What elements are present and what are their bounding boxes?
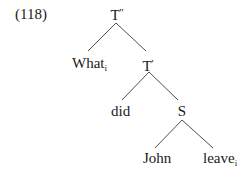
node-t-double-bar-base: T xyxy=(110,7,119,23)
node-did: did xyxy=(111,104,130,119)
node-john: John xyxy=(143,151,171,166)
node-t-bar-base: T xyxy=(142,58,151,74)
node-s: S xyxy=(178,104,186,119)
node-t-double-bar-prime: '' xyxy=(120,6,124,18)
node-what: Whati xyxy=(72,56,107,71)
node-leave: leavei xyxy=(203,151,237,166)
edge-tbar-did xyxy=(122,72,149,100)
edge-tbar-s xyxy=(149,72,178,100)
edge-tdoublebar-what xyxy=(88,23,116,51)
tree-edges xyxy=(0,0,245,169)
node-what-base: What xyxy=(72,55,104,71)
node-t-bar-prime: ' xyxy=(152,57,154,69)
node-t-bar: T' xyxy=(142,56,153,74)
node-leave-base: leave xyxy=(203,150,235,166)
node-t-double-bar: T'' xyxy=(110,5,123,23)
node-what-subscript: i xyxy=(104,63,107,73)
example-number: (118) xyxy=(15,7,47,22)
edge-s-leave xyxy=(182,120,213,148)
node-leave-subscript: i xyxy=(235,158,238,168)
edge-s-john xyxy=(155,120,182,148)
edge-tdoublebar-tbar xyxy=(116,23,146,51)
